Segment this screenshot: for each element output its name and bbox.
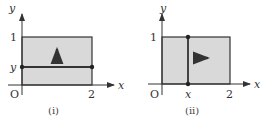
panel-i: y 1 y O 2 x (i): [8, 2, 125, 116]
marker-label: x: [185, 88, 192, 101]
x-tick-label: 2: [88, 88, 95, 101]
y-tick-label: 1: [10, 31, 17, 44]
diagram-canvas: y 1 y O 2 x (i) y 1 O x 2 x (ii): [0, 0, 265, 126]
caption: (i): [48, 105, 59, 116]
x-axis-label: x: [254, 78, 261, 91]
panel-ii: y 1 O x 2 x (ii): [148, 2, 261, 116]
endpoint-dot: [186, 82, 190, 86]
x-axis-label: x: [118, 79, 125, 92]
endpoint-dot: [90, 65, 94, 69]
x-tick-label: 2: [226, 88, 233, 101]
y-axis-label: y: [159, 2, 167, 15]
endpoint-dot: [20, 65, 24, 69]
caption: (ii): [185, 105, 199, 116]
marker-label: y: [9, 61, 17, 74]
origin-label: O: [10, 88, 19, 101]
y-tick-label: 1: [150, 31, 157, 44]
region-rect: [162, 37, 230, 84]
y-axis-label: y: [8, 2, 16, 15]
endpoint-dot: [186, 35, 190, 39]
origin-label: O: [150, 88, 159, 101]
